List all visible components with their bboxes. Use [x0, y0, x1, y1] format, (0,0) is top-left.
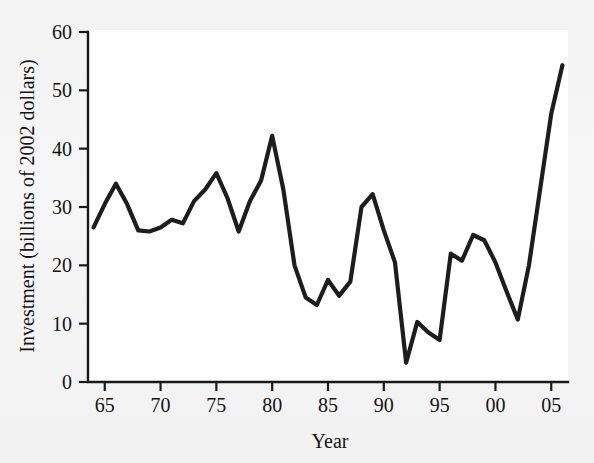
x-tick-label-95: 95	[430, 394, 450, 416]
plot-area-background	[88, 30, 568, 382]
y-axis-title: Investment (billions of 2002 dollars)	[16, 59, 39, 352]
y-tick-label-0: 0	[62, 371, 72, 393]
x-tick-label-00: 00	[485, 394, 505, 416]
y-tick-label-30: 30	[52, 196, 72, 218]
y-tick-label-60: 60	[52, 21, 72, 43]
x-axis-title: Year	[312, 430, 349, 452]
y-axis-ticks	[79, 32, 88, 382]
x-tick-label-65: 65	[95, 394, 115, 416]
x-axis-ticks	[105, 382, 552, 391]
x-tick-label-75: 75	[206, 394, 226, 416]
y-tick-label-50: 50	[52, 79, 72, 101]
y-tick-label-40: 40	[52, 138, 72, 160]
y-axis-tick-labels: 0102030405060	[52, 21, 72, 393]
x-tick-label-85: 85	[318, 394, 338, 416]
x-tick-label-05: 05	[541, 394, 561, 416]
x-tick-label-70: 70	[151, 394, 171, 416]
y-tick-label-20: 20	[52, 254, 72, 276]
x-tick-label-90: 90	[374, 394, 394, 416]
x-tick-label-80: 80	[262, 394, 282, 416]
y-tick-label-10: 10	[52, 313, 72, 335]
x-axis-tick-labels: 657075808590950005	[95, 394, 562, 416]
figure-container: 0102030405060 657075808590950005 Year In…	[0, 0, 594, 463]
investment-line-chart: 0102030405060 657075808590950005 Year In…	[0, 0, 594, 463]
